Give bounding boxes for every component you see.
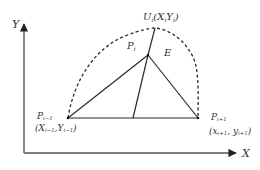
label-p-next: Pi+1	[211, 113, 227, 123]
label-p-prev: Pi−1	[37, 112, 53, 122]
point-p-next	[197, 117, 200, 120]
label-p-next-coords: (xi+1, yi+1)	[209, 127, 251, 137]
label-region-e: E	[164, 48, 171, 58]
label-p-i: Pi	[127, 41, 136, 52]
edge-pi-to-ui	[148, 28, 155, 55]
edge-pi-to-next	[148, 55, 198, 118]
label-u-i: Ui(XiYi)	[143, 12, 179, 23]
y-axis-label: Y	[12, 19, 19, 30]
x-axis-label: X	[242, 148, 250, 159]
label-p-prev-coords: (Xi−1,Yi−1)	[35, 124, 77, 134]
point-p-prev	[67, 117, 70, 120]
point-p-i	[147, 54, 149, 56]
diagram-canvas	[0, 0, 260, 170]
edge-prev-to-pi	[68, 55, 148, 118]
